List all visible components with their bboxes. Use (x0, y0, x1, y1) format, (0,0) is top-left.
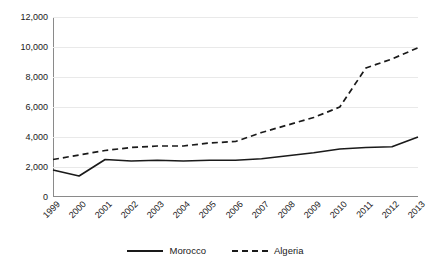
legend-swatch-solid (127, 250, 163, 252)
plot-area (53, 17, 418, 197)
y-axis-tick-label: 10,000 (4, 43, 48, 52)
x-axis-tick-label: 2006 (221, 199, 245, 223)
y-axis-tick-label: 2,000 (4, 163, 48, 172)
x-axis-tick-label: 2004 (168, 199, 192, 223)
y-axis-tick-label: 4,000 (4, 133, 48, 142)
x-axis-tick-label: 2003 (142, 199, 166, 223)
y-axis-tick-label: 6,000 (4, 103, 48, 112)
x-axis-tick-label: 2008 (273, 199, 297, 223)
x-axis-tick-label: 2012 (377, 199, 401, 223)
series-line-algeria (53, 48, 418, 160)
x-axis-tick-label: 2002 (116, 199, 140, 223)
y-axis-tick-label: 0 (4, 193, 48, 202)
legend-swatch-dashed (232, 250, 268, 252)
series-line-morocco (53, 137, 418, 176)
legend-label: Morocco (169, 245, 205, 256)
x-axis-tick-label: 2001 (90, 199, 114, 223)
x-axis: 1999200020012002200320042005200620072008… (53, 199, 418, 239)
line-chart: 12,00010,0008,0006,0004,0002,0000 199920… (0, 0, 431, 272)
series-lines (53, 17, 418, 197)
x-axis-tick-label: 2013 (403, 199, 427, 223)
y-axis-tick-label: 12,000 (4, 13, 48, 22)
chart-legend: MoroccoAlgeria (0, 245, 431, 256)
legend-label: Algeria (274, 245, 304, 256)
legend-item-algeria[interactable]: Algeria (232, 245, 304, 256)
x-axis-tick-label: 2009 (299, 199, 323, 223)
x-axis-tick-label: 2005 (194, 199, 218, 223)
x-axis-tick-label: 2007 (247, 199, 271, 223)
y-axis-tick-label: 8,000 (4, 73, 48, 82)
x-axis-tick-label: 2011 (351, 199, 375, 223)
x-axis-tick-label: 2000 (64, 199, 88, 223)
legend-item-morocco[interactable]: Morocco (127, 245, 205, 256)
y-axis: 12,00010,0008,0006,0004,0002,0000 (0, 0, 48, 272)
x-axis-tick-label: 2010 (325, 199, 349, 223)
